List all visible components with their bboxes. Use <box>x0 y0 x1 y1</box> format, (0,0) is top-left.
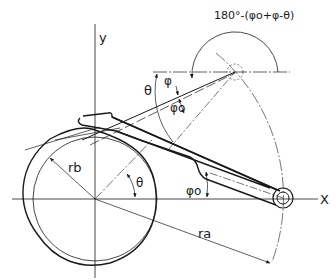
ra-radius-line <box>95 199 270 263</box>
ra-label: ra <box>198 226 211 241</box>
rb-label: rb <box>68 160 82 175</box>
angle-expression-label: 180°-(φo+φ-θ) <box>214 9 294 22</box>
theta-lower-label: θ <box>136 176 143 190</box>
theta-radius-line <box>95 140 152 199</box>
theta-lower-arc <box>127 174 135 197</box>
phi-o-upper-label: φo <box>170 101 185 115</box>
cam-profile <box>23 128 156 265</box>
theta-upper-label: θ <box>144 83 152 98</box>
phi-o-lower-arc <box>206 172 208 197</box>
upper-link-line-1 <box>82 72 235 140</box>
y-axis-label: y <box>99 30 107 45</box>
x-axis-label: X <box>320 192 329 207</box>
follower-arm <box>78 113 277 190</box>
phi-label: φ <box>164 74 172 88</box>
ra-arc <box>216 53 283 262</box>
phi-o-lower-label: φo <box>186 184 201 198</box>
cam-diagram: y X 180°-(φo+φ-θ) θ φ φo rb θ φo ra <box>0 0 336 280</box>
phi-arrow <box>176 86 178 95</box>
upper-link-line-2 <box>90 73 235 145</box>
